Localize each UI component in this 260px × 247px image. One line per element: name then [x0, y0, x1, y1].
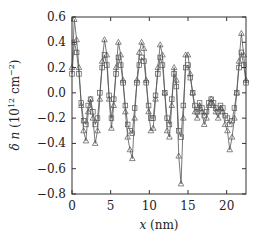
x-tick-label: 20: [219, 199, 234, 213]
y-axis-label: δ n (1012 cm−2): [7, 59, 22, 150]
line-chart: 05101520 0.60.40.20.0−0.2−0.4−0.6−0.8 x …: [0, 0, 260, 247]
x-tick-label: 5: [107, 199, 115, 213]
y-tick-label: 0.2: [47, 61, 66, 75]
x-tick-label: 10: [142, 199, 157, 213]
y-tick-label: 0.6: [47, 10, 66, 24]
y-tick-label: 0.0: [47, 86, 66, 100]
x-tick-label: 15: [180, 199, 195, 213]
plot-series: [69, 17, 249, 186]
x-tick-label: 0: [68, 199, 76, 213]
y-tick-label: −0.4: [37, 136, 67, 150]
y-tick-label: −0.8: [37, 187, 66, 201]
y-tick-label: −0.2: [37, 111, 66, 125]
x-axis-label: x (nm): [139, 218, 178, 232]
y-tick-label: −0.6: [37, 162, 66, 176]
y-tick-label: 0.4: [47, 35, 66, 49]
